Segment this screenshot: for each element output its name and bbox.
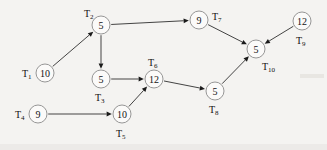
node-label: T6 — [148, 57, 158, 70]
node-t8[interactable]: 5T8 — [206, 82, 224, 117]
edge-arrowhead — [199, 86, 205, 91]
edge-t1-to-t2 — [53, 32, 94, 67]
node-t2[interactable]: 5T2 — [84, 8, 110, 35]
node-value: 12 — [149, 74, 159, 85]
node-t1[interactable]: 10T1 — [22, 64, 54, 82]
node-value: 5 — [99, 74, 104, 85]
edge-shaft — [111, 21, 183, 25]
node-t9[interactable]: 12T9 — [293, 12, 311, 48]
nodes-layer: 10T15T25T39T410T512T69T75T812T95T10 — [15, 8, 311, 141]
node-value: 12 — [297, 16, 307, 27]
graph-svg: 10T15T25T39T410T512T69T75T812T95T10 — [0, 0, 327, 150]
edge-arrowhead — [184, 18, 189, 23]
node-label: T2 — [84, 8, 94, 21]
edge-t3-to-t6 — [111, 77, 144, 82]
node-label: T1 — [22, 68, 32, 81]
edge-t5-to-t6 — [129, 87, 147, 107]
node-t5[interactable]: 10T5 — [113, 105, 131, 141]
edge-t8-to-t10 — [222, 56, 249, 83]
edge-t4-to-t5 — [48, 112, 112, 117]
node-label: T4 — [15, 109, 25, 122]
edge-arrowhead — [139, 77, 144, 82]
edge-t2-to-t7 — [111, 18, 189, 24]
edge-arrowhead — [265, 39, 271, 44]
node-label: T3 — [95, 92, 105, 105]
node-value: 10 — [40, 68, 50, 79]
diagram-canvas: 10T15T25T39T410T512T69T75T812T95T10 — [0, 0, 327, 150]
edge-shaft — [208, 25, 242, 42]
node-t6[interactable]: 12T6 — [145, 57, 163, 89]
edge-arrowhead — [107, 112, 112, 117]
node-label: T7 — [212, 11, 222, 24]
node-label: T9 — [296, 35, 306, 48]
edge-t2-to-t3 — [99, 35, 104, 69]
edge-shaft — [129, 90, 144, 106]
edge-shaft — [53, 35, 90, 66]
node-value: 10 — [117, 109, 127, 120]
edge-shaft — [164, 81, 200, 88]
node-label: T8 — [209, 104, 219, 117]
node-t4[interactable]: 9T4 — [15, 105, 47, 123]
edge-t6-to-t8 — [164, 81, 205, 90]
edge-shaft — [222, 60, 245, 84]
node-t7[interactable]: 9T7 — [190, 11, 222, 30]
node-value: 5 — [254, 44, 259, 55]
node-t3[interactable]: 5T3 — [92, 70, 110, 105]
node-t10[interactable]: 5T10 — [247, 40, 276, 74]
node-value: 5 — [99, 20, 104, 31]
edge-shaft — [269, 26, 293, 41]
node-value: 9 — [36, 109, 41, 120]
node-label: T5 — [116, 128, 126, 141]
edge-t7-to-t10 — [208, 25, 247, 45]
edge-t9-to-t10 — [265, 26, 294, 43]
edges-layer — [48, 18, 293, 116]
node-value: 9 — [197, 15, 202, 26]
node-value: 5 — [213, 86, 218, 97]
edge-arrowhead — [99, 64, 104, 69]
node-label: T10 — [262, 61, 276, 74]
